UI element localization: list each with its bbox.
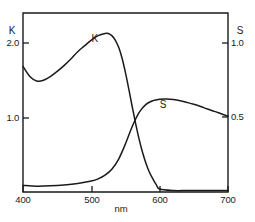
series-curve-k [23,33,228,190]
x-ticklabel-500: 500 [84,194,99,205]
series-curve-s [23,99,228,186]
right-ticklabel-0.5: 0.5 [231,111,244,122]
plot-frame [23,13,228,192]
x-axis-title: nm [114,203,127,214]
x-ticklabel-700: 700 [220,194,235,205]
left-ticklabel-1.0: 1.0 [6,112,19,123]
right-axis-name: S [237,25,244,36]
figure-container: K S 2.0 1.0 1.0 0.5 400 500 600 700 nm K… [0,0,255,222]
left-axis-name: K [9,25,16,36]
series-annotation-s: S [160,99,167,110]
left-ticklabel-2.0: 2.0 [6,37,19,48]
x-ticklabel-600: 600 [152,194,167,205]
x-ticklabel-400: 400 [15,194,30,205]
chart-svg: K S 2.0 1.0 1.0 0.5 400 500 600 700 nm K… [0,0,255,222]
right-ticklabel-1.0: 1.0 [231,37,244,48]
series-annotation-k: K [91,33,98,44]
